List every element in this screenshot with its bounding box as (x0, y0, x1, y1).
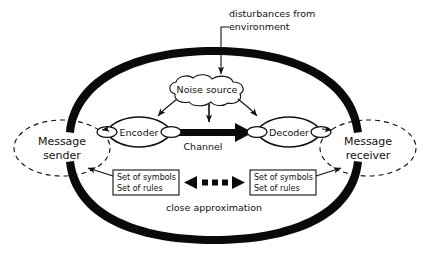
message-sender-node: Message sender (14, 120, 110, 176)
left-box-to-sender-arrow (88, 168, 113, 176)
encoder-label: Encoder (120, 127, 159, 138)
right-box-to-receiver-arrow (316, 168, 341, 176)
decoder-right-port (311, 127, 331, 138)
message-receiver-node: Message receiver (320, 120, 416, 176)
right-symbols-box: Set of symbols Set of rules (250, 170, 316, 195)
message-receiver-label-line1: Message (344, 135, 392, 148)
right-symbols-line2: Set of rules (254, 184, 300, 193)
noise-source-node: Noise source (170, 75, 243, 106)
channel-label: Channel (183, 141, 222, 152)
encoder-left-port (97, 127, 117, 138)
double-arrow-dash-2 (212, 180, 218, 186)
message-sender-ellipse (14, 120, 110, 176)
disturbances-label-line2: environment (229, 21, 290, 32)
left-symbols-line2: Set of rules (117, 184, 163, 193)
message-sender-label-line1: Message (38, 135, 86, 148)
channel-arrow-shape (174, 123, 253, 142)
communication-model-diagram: Message sender Message receiver Channel … (0, 0, 428, 253)
message-receiver-label-line2: receiver (346, 149, 391, 162)
right-symbols-line1: Set of symbols (254, 173, 313, 182)
double-arrow-dash-3 (222, 180, 228, 186)
channel-arrow: Channel (174, 123, 253, 152)
noise-to-encoder-arrow (158, 99, 177, 116)
message-sender-label-line2: sender (43, 149, 81, 162)
disturbances-label-line1: disturbances from (229, 8, 315, 19)
double-arrow-dash-1 (202, 180, 208, 186)
decoder-left-port (247, 127, 267, 138)
double-arrow-left-head (184, 176, 197, 189)
close-approximation-label: close approximation (166, 202, 262, 213)
left-symbols-box: Set of symbols Set of rules (113, 170, 179, 195)
encoder-right-port (161, 127, 181, 138)
diagram-canvas: Message sender Message receiver Channel … (0, 0, 428, 253)
double-arrow-right-head (232, 176, 245, 189)
message-receiver-ellipse (320, 120, 416, 176)
decoder-label: Decoder (269, 127, 309, 138)
noise-to-decoder-arrow (238, 99, 257, 116)
noise-source-label: Noise source (177, 84, 238, 95)
left-symbols-line1: Set of symbols (117, 173, 176, 182)
decoder-node: Decoder (247, 117, 331, 147)
close-approximation-double-arrow (184, 176, 245, 189)
